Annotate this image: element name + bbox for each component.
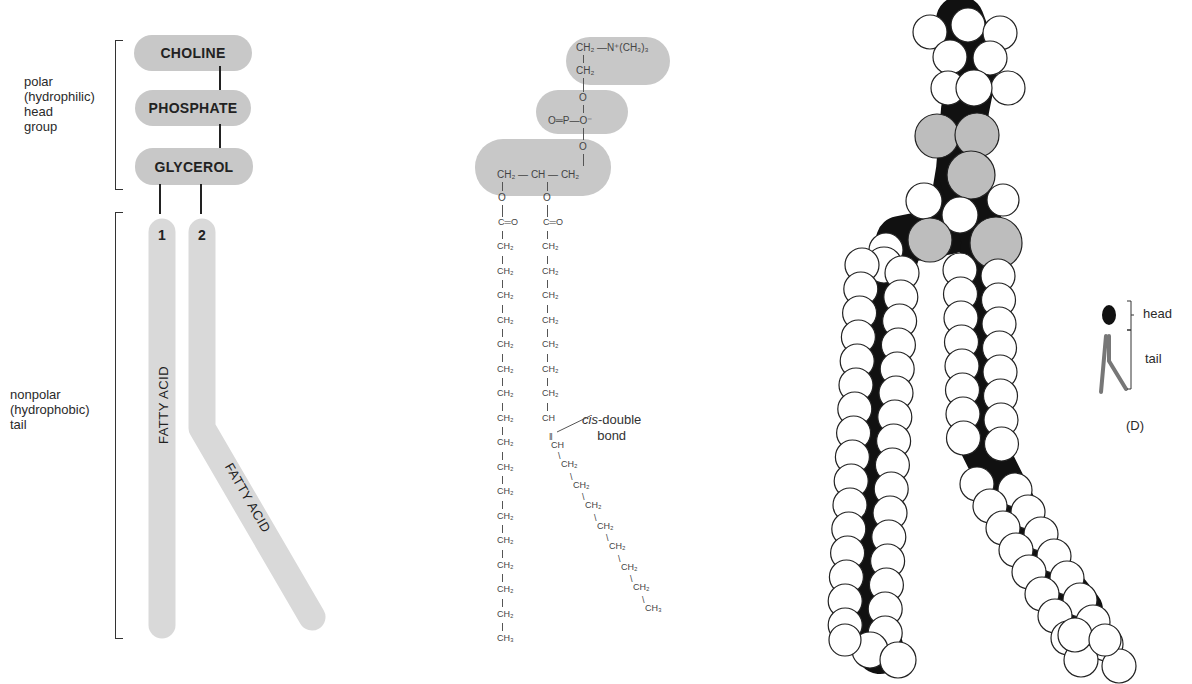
lipid-symbol-icon [0,0,1192,684]
tail-label-d: tail [1145,351,1162,366]
panel-caption: (D) [1126,418,1144,433]
head-label: head [1143,306,1172,321]
